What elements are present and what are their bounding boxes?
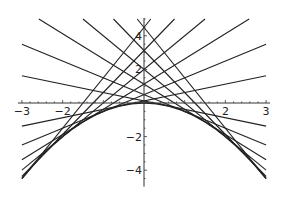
y-tick-label: −4: [126, 164, 142, 177]
y-tick-label: 4: [135, 30, 142, 43]
x-tick-label: 2: [222, 105, 229, 118]
y-tick-label: 2: [135, 63, 142, 76]
x-tick-label: −2: [54, 105, 70, 118]
axes: [18, 18, 270, 187]
x-tick-labels: −3−223: [14, 105, 270, 118]
x-tick-label: −3: [14, 105, 30, 118]
y-tick-label: −2: [126, 131, 142, 144]
tangent-line: [39, 19, 266, 160]
chart-canvas: −3−223 −4−224: [0, 0, 285, 197]
x-tick-label: 3: [263, 105, 270, 118]
